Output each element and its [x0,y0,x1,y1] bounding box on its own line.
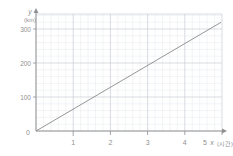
x-tick-label-3: 3 [146,139,150,146]
x-axis-variable-label: x [209,139,214,146]
y-tick-label-100: 100 [20,94,31,101]
x-tick-label-2: 2 [108,139,112,146]
x-tick-label-4: 4 [183,139,187,146]
line-graph-svg: y (km) 300 200 100 0 1 2 3 4 5 x (시간) [0,0,233,156]
y-axis-unit-label: (km) [24,17,36,23]
y-tick-label-300: 300 [20,26,31,33]
x-axis-unit-label: (시간) [217,140,233,147]
y-axis-variable-label: y [27,8,32,16]
graph-figure: y (km) 300 200 100 0 1 2 3 4 5 x (시간) [0,0,233,156]
chart-background [0,0,233,156]
x-tick-label-1: 1 [71,139,75,146]
origin-label: 0 [26,129,30,136]
y-tick-label-200: 200 [20,60,31,67]
x-tick-label-5: 5 [203,139,207,146]
